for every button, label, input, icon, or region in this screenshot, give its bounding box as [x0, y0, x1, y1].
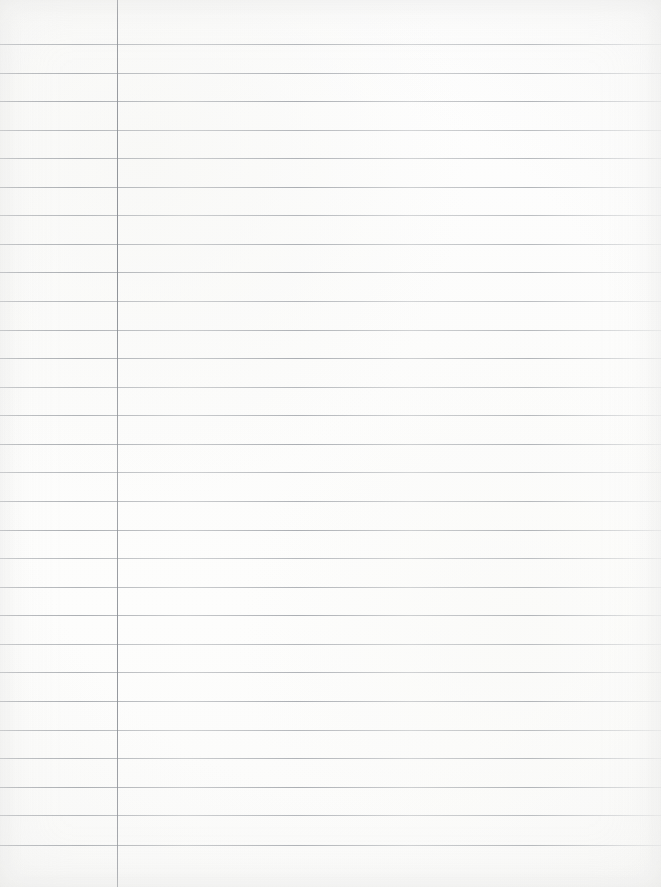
ruled-line-27 [0, 787, 661, 788]
ruled-line-12 [0, 358, 661, 359]
ruled-line-3 [0, 101, 661, 102]
ruled-line-18 [0, 530, 661, 531]
ruled-line-11 [0, 330, 661, 331]
ruled-line-8 [0, 244, 661, 245]
ruled-line-17 [0, 501, 661, 502]
ruled-line-22 [0, 644, 661, 645]
ruled-line-2 [0, 73, 661, 74]
ruled-line-1 [0, 44, 661, 45]
scanned-lined-paper-page: Blank ruled notebook page [0, 0, 661, 887]
ruled-line-7 [0, 215, 661, 216]
ruled-line-6 [0, 187, 661, 188]
ruled-line-23 [0, 672, 661, 673]
ruled-line-24 [0, 701, 661, 702]
page-body-text [0, 0, 1, 1]
ruled-line-21 [0, 615, 661, 616]
ruled-line-16 [0, 472, 661, 473]
ruled-line-9 [0, 272, 661, 273]
ruled-line-25 [0, 730, 661, 731]
ruled-line-5 [0, 158, 661, 159]
ruled-line-29 [0, 845, 661, 846]
ruled-line-13 [0, 387, 661, 388]
ruled-line-28 [0, 815, 661, 816]
ruled-line-4 [0, 130, 661, 131]
vertical-margin-rule [117, 0, 118, 887]
ruled-line-15 [0, 444, 661, 445]
ruled-line-26 [0, 758, 661, 759]
ruled-line-10 [0, 301, 661, 302]
ruled-line-19 [0, 558, 661, 559]
ruled-line-14 [0, 415, 661, 416]
ruled-line-20 [0, 587, 661, 588]
page-title: Blank ruled notebook page [0, 0, 1, 1]
